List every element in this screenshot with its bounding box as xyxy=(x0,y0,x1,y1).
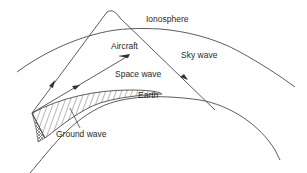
wave-propagation-diagram xyxy=(0,0,307,173)
space-wave-label: Space wave xyxy=(115,70,161,79)
sky-wave-up-arrow xyxy=(49,80,55,88)
ground-wave-label: Ground wave xyxy=(56,130,107,139)
aircraft-icon xyxy=(118,54,130,58)
space-wave-arrow xyxy=(72,85,80,90)
aircraft-label: Aircraft xyxy=(111,42,138,51)
ionosphere-label: Ionosphere xyxy=(146,15,189,24)
sky-wave-label: Sky wave xyxy=(181,51,217,60)
earth-label: Earth xyxy=(138,91,158,100)
sky-wave-down-arrow xyxy=(180,74,188,80)
